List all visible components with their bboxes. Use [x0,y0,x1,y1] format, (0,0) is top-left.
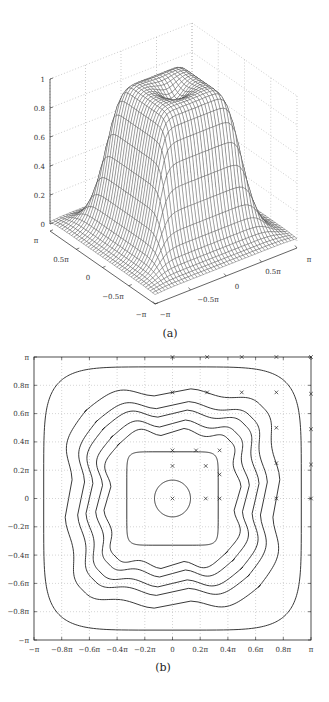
cross-marker [275,391,279,395]
y-tick-label: 0.8π [13,382,29,390]
z-tick-label: 0.6 [34,134,46,142]
y-tick-label: −π [19,637,30,645]
figure: 0 0.2 0.4 0.6 0.8 1 π 0.5π 0 −0.5π −π −π… [0,0,329,702]
x-tick-label: 0.4π [220,646,236,654]
cross-marker [171,497,175,501]
x-tick-label: −0.8π [51,646,73,654]
y-tick-label: −0.5π [102,293,124,301]
y-tick [129,285,132,286]
y-tick [155,303,158,304]
y-tick-label: −π [136,311,147,319]
x-tick-labels: −π−0.8π−0.6π−0.4π−0.2π00.2π0.4π0.6π0.8ππ [29,646,314,654]
y-tick-label: 0.5π [53,256,69,264]
cross-marker [204,464,208,468]
cross-marker [275,426,279,430]
z-tick-label: 0.2 [34,192,45,200]
caption-a: (a) [162,327,177,340]
z-tick [50,136,53,137]
x-tick-label: −0.5π [197,296,219,304]
x-tick [189,288,191,291]
x-tick [260,260,262,263]
z-tick [50,223,53,224]
y-tick-label: 0.2π [13,467,29,475]
z-tick [50,78,53,79]
x-tick-label: −0.2π [134,646,156,654]
z-tick-labels: 0 0.2 0.4 0.6 0.8 1 [34,76,46,229]
z-tick [50,194,53,195]
y-tick [76,248,79,249]
y-tick-label: 0.6π [13,410,29,418]
x-tick-label: 0.5π [265,268,281,276]
caption-b: (b) [155,661,171,674]
y-tick-label: π [24,354,29,362]
x-tick-label: −0.4π [106,646,128,654]
y-tick-label: 0.4π [13,438,29,446]
x-tick-label: 0.2π [192,646,208,654]
z-tick [50,107,53,108]
z-tick-label: 0.4 [34,163,46,171]
y-tick-label: −0.6π [7,580,29,588]
x-tick-label: −π [160,311,171,319]
x-tick [295,246,297,249]
x-tick-label: 0 [235,283,239,291]
x-tick-label: 0.8π [275,646,291,654]
y-tick-label: 0 [25,495,29,503]
z-tick-label: 1 [41,76,45,84]
z-tick [50,165,53,166]
y-tick-label: −0.2π [7,523,29,531]
surface-plot: 0 0.2 0.4 0.6 0.8 1 π 0.5π 0 −0.5π −π −π… [34,23,312,340]
x-tick-label: π [309,646,314,654]
y-tick [50,230,53,231]
cross-marker [171,464,175,468]
y-tick-label: 0 [86,274,90,282]
cross-marker [240,391,244,395]
x-tick-label: 0.6π [248,646,264,654]
x-tick-label: −π [29,646,40,654]
contour-markers [171,355,313,500]
y-tick [103,266,106,267]
x-tick [224,274,226,277]
y-tick-label: −0.8π [7,608,29,616]
x-tick-label: 0 [170,646,174,654]
contour-plot: −π−0.8π−0.6π−0.4π−0.2π00.2π0.4π0.6π0.8ππ… [7,354,313,675]
cross-marker [218,449,222,453]
cross-marker [204,497,208,501]
y-tick-labels: π0.8π0.6π0.4π0.2π0−0.2π−0.4π−0.6π−0.8π−π [7,354,29,645]
y-tick-label: −0.4π [7,552,29,560]
y-tick-label: π [34,237,39,245]
x-tick-label: π [307,256,312,264]
z-tick-label: 0.8 [34,105,45,113]
x-tick-label: −0.6π [79,646,101,654]
z-tick-label: 0 [41,221,45,229]
